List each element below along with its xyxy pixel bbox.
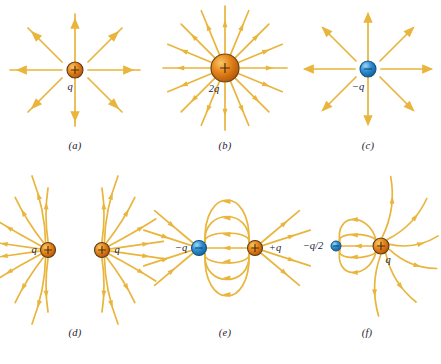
panel-c-diagram: −q [295, 0, 441, 140]
panel-d: q q (d) [0, 172, 150, 327]
panel-a: q (a) [0, 0, 150, 140]
panel-caption-d: (d) [45, 327, 105, 338]
charge-label-positive: q [385, 254, 390, 265]
charge-label-negative-half: −q/2 [303, 240, 324, 251]
panel-d-diagram: q q [0, 172, 150, 327]
charge-label: q [67, 81, 72, 92]
panel-caption-c: (c) [338, 140, 398, 151]
panel-f-diagram: −q/2 q [295, 172, 441, 327]
panel-a-diagram: q [0, 0, 150, 140]
panel-f: −q/2 q (f) [295, 172, 441, 327]
electric-field-lines-figure: q (a) 2q (b) [0, 0, 441, 364]
panel-e: −q +q (e) [145, 172, 305, 327]
panel-caption-a: (a) [45, 140, 105, 151]
panel-b: 2q (b) [145, 0, 305, 140]
charge-label-left: q [31, 244, 36, 255]
panel-e-diagram: −q +q [145, 172, 305, 327]
charge-label: 2q [209, 83, 220, 94]
charge-label-negative: −q [175, 242, 187, 253]
panel-b-diagram: 2q [145, 0, 305, 140]
charge-label-right: q [114, 244, 119, 255]
panel-caption-e: (e) [195, 327, 255, 338]
panel-c: −q (c) [295, 0, 441, 140]
panel-caption-f: (f) [337, 327, 397, 338]
panel-caption-b: (b) [195, 140, 255, 151]
charge-label-positive: +q [269, 242, 281, 253]
charge-label: −q [352, 81, 364, 92]
